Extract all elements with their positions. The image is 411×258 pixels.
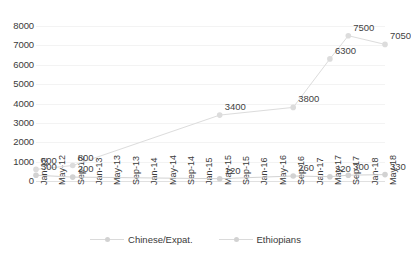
x-axis-tick-sep-13: Sep-13 — [132, 156, 141, 185]
y-axis-tick-5000: 5000 — [0, 79, 34, 89]
data-label: 300 — [353, 162, 369, 172]
data-point — [70, 174, 76, 180]
legend-item-ethiopians[interactable]: Ethiopians — [219, 234, 301, 245]
legend-label-ethiopians: Ethiopians — [257, 234, 301, 245]
legend-label-chinese-expat: Chinese/Expat. — [128, 234, 192, 245]
data-point — [382, 172, 388, 178]
x-axis-tick-sep-15: Sep-15 — [242, 156, 251, 185]
data-point — [217, 112, 223, 118]
y-axis-tick-1000: 1000 — [0, 157, 34, 167]
data-label: 7500 — [353, 23, 374, 33]
legend-line-icon — [219, 239, 253, 240]
data-label: 260 — [298, 163, 314, 173]
data-label: 6300 — [335, 46, 356, 56]
y-axis-tick-2000: 2000 — [0, 137, 34, 147]
data-label: 600 — [41, 156, 57, 166]
x-axis-tick-may-16: May-16 — [279, 155, 288, 185]
y-axis-tick-0: 0 — [0, 176, 34, 186]
data-point — [327, 174, 333, 180]
data-label: 3800 — [298, 94, 319, 104]
gridline — [36, 142, 385, 143]
data-label: 220 — [335, 164, 351, 174]
data-label: 120 — [225, 166, 241, 176]
data-label: 330 — [390, 162, 406, 172]
gridline — [36, 123, 385, 124]
series-line — [36, 36, 385, 170]
y-axis-tick-8000: 8000 — [0, 21, 34, 31]
x-axis-tick-jan-13: Jan-13 — [95, 157, 104, 185]
y-axis-tick-4000: 4000 — [0, 99, 34, 109]
legend-item-chinese-expat[interactable]: Chinese/Expat. — [90, 234, 192, 245]
x-axis-tick-may-14: May-14 — [169, 155, 178, 185]
x-axis-tick-jan-17: Jan-17 — [316, 157, 325, 185]
data-point — [290, 105, 296, 111]
gridline — [36, 45, 385, 46]
x-axis-tick-may-12: May-12 — [58, 155, 67, 185]
x-axis-tick-jan-18: Jan-18 — [371, 157, 380, 185]
gridline — [36, 65, 385, 66]
data-point — [327, 56, 333, 62]
chart-legend: Chinese/Expat. Ethiopians — [0, 234, 391, 245]
gridline — [36, 84, 385, 85]
data-point — [33, 172, 39, 178]
x-axis-tick-jan-14: Jan-14 — [150, 157, 159, 185]
data-point — [33, 167, 39, 173]
x-axis-tick-may-13: May-13 — [113, 155, 122, 185]
data-point — [346, 33, 352, 39]
y-axis-tick-3000: 3000 — [0, 118, 34, 128]
y-axis-tick-7000: 7000 — [0, 40, 34, 50]
data-label: 3400 — [225, 102, 246, 112]
legend-line-icon — [90, 239, 124, 240]
data-label: 200 — [78, 164, 94, 174]
gridline — [36, 26, 385, 27]
legend-dot-icon — [105, 237, 110, 242]
x-axis-tick-jan-15: Jan-15 — [205, 157, 214, 185]
y-axis-tick-6000: 6000 — [0, 60, 34, 70]
x-axis-tick-jan-16: Jan-16 — [260, 157, 269, 185]
x-axis-tick-sep-14: Sep-14 — [187, 156, 196, 185]
data-label: 7050 — [390, 31, 411, 41]
gridline — [36, 104, 385, 105]
data-label: 800 — [78, 153, 94, 163]
legend-dot-icon — [234, 237, 239, 242]
data-point — [70, 163, 76, 169]
